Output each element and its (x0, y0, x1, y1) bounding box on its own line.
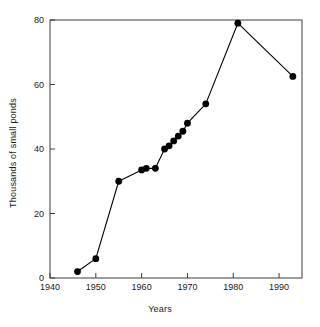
y-axis-title: Thousands of small ponds (8, 93, 18, 213)
data-point-marker (184, 120, 191, 127)
data-point-marker (289, 73, 296, 80)
y-tick-label: 40 (22, 144, 44, 154)
y-tick-label: 20 (22, 209, 44, 219)
axis-frame (50, 20, 302, 278)
data-point-marker (115, 178, 122, 185)
x-tick-label: 1940 (40, 282, 60, 292)
x-tick-label: 1990 (269, 282, 289, 292)
x-axis-title: Years (0, 304, 320, 314)
data-point-marker (179, 128, 186, 135)
series-markers-small-ponds (74, 20, 296, 275)
x-tick-label: 1980 (223, 282, 243, 292)
pond-count-line-chart: Thousands of small ponds Years 194019501… (0, 0, 320, 327)
y-tick-label: 60 (22, 80, 44, 90)
data-point-marker (234, 20, 241, 27)
data-point-marker (202, 100, 209, 107)
y-tick-label: 0 (22, 273, 44, 283)
data-point-marker (143, 165, 150, 172)
series-line-small-ponds (77, 23, 292, 271)
plot-border (50, 20, 302, 278)
x-tick-label: 1950 (86, 282, 106, 292)
x-tick-label: 1960 (132, 282, 152, 292)
data-point-marker (74, 268, 81, 275)
data-point-marker (92, 255, 99, 262)
data-point-marker (152, 165, 159, 172)
x-tick-label: 1970 (177, 282, 197, 292)
y-tick-label: 80 (22, 15, 44, 25)
chart-plot-area (0, 0, 320, 327)
